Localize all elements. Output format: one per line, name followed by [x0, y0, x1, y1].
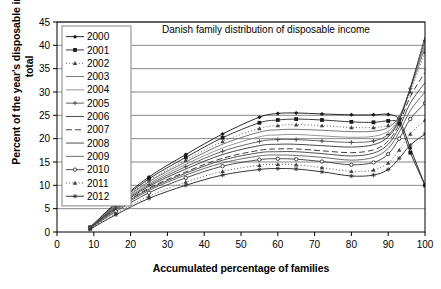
series-line	[90, 83, 425, 228]
marker-star	[320, 170, 324, 174]
y-tick-label: 40	[39, 40, 51, 51]
series-line	[90, 72, 425, 227]
marker-diamond	[276, 111, 280, 115]
marker-circle	[221, 165, 224, 168]
marker-triangle	[349, 169, 353, 173]
legend-label: 2004	[87, 84, 110, 95]
legend-label: 2009	[87, 151, 110, 162]
x-tick-label: 90	[383, 239, 395, 250]
x-tick-label: 0	[54, 239, 60, 250]
marker-triangle	[386, 161, 390, 165]
marker-circle	[258, 158, 261, 161]
series-2005	[88, 38, 427, 229]
marker-square	[320, 118, 324, 122]
marker-circle	[320, 160, 323, 163]
marker-diamond	[294, 111, 298, 115]
marker-square	[276, 118, 280, 122]
marker-circle	[276, 157, 279, 160]
marker-circle	[184, 176, 187, 179]
x-tick-label: 50	[235, 239, 247, 250]
marker-star	[220, 173, 224, 177]
y-tick-label: 10	[39, 180, 51, 191]
series-2006	[90, 37, 425, 227]
marker-circle	[350, 163, 353, 166]
marker-triangle	[220, 169, 224, 173]
marker-star	[408, 143, 412, 147]
series-2012	[88, 132, 427, 232]
marker-plus	[276, 137, 280, 141]
x-axis-label: Accumulated percentage of families	[57, 262, 425, 274]
legend: 2000200120022003200420052006200720082009…	[62, 26, 131, 206]
y-tick-label: 0	[44, 227, 50, 238]
marker-star	[371, 173, 375, 177]
legend-label: 2005	[87, 98, 110, 109]
marker-square	[372, 120, 376, 124]
series-2001	[88, 117, 427, 229]
legend-label: 2000	[87, 31, 110, 42]
marker-square	[258, 121, 262, 125]
marker-square	[408, 151, 412, 155]
marker-triangle	[320, 123, 324, 127]
y-tick-label: 35	[39, 63, 51, 74]
marker-plus	[371, 139, 375, 143]
marker-circle	[372, 161, 375, 164]
marker-star	[294, 167, 298, 171]
marker-circle	[409, 117, 412, 120]
x-tick-label: 40	[199, 239, 211, 250]
x-tick-label: 100	[417, 239, 434, 250]
x-tick-label: 20	[125, 239, 137, 250]
marker-star	[147, 196, 151, 200]
series-line	[90, 37, 425, 227]
y-tick-label: 45	[39, 17, 51, 28]
marker-star	[276, 166, 280, 170]
x-tick-label: 80	[346, 239, 358, 250]
plot-area: 051015202530354045 010203040506070809010…	[0, 0, 441, 289]
x-tick-label: 10	[88, 239, 100, 250]
legend-label: 2010	[87, 164, 110, 175]
marker-diamond	[371, 113, 375, 117]
series-2002	[88, 50, 427, 229]
legend-label: 2002	[87, 58, 110, 69]
marker-star	[386, 167, 390, 171]
marker-star	[184, 183, 188, 187]
marker-square	[73, 48, 77, 52]
series-2007	[90, 72, 425, 227]
marker-square	[294, 117, 298, 121]
marker-triangle	[257, 163, 261, 167]
marker-plus	[257, 139, 261, 143]
marker-circle	[295, 158, 298, 161]
marker-square	[386, 119, 390, 123]
marker-star	[88, 227, 92, 231]
y-tick-label: 5	[44, 203, 50, 214]
y-tick-label: 20	[39, 133, 51, 144]
legend-label: 2006	[87, 111, 110, 122]
chart-figure: Percent of the year's disposable income …	[0, 0, 441, 289]
marker-triangle	[294, 122, 298, 126]
marker-diamond	[220, 132, 224, 136]
y-tick-label: 30	[39, 87, 51, 98]
x-axis: 0102030405060708090100	[54, 232, 434, 250]
x-tick-label: 60	[272, 239, 284, 250]
marker-diamond	[257, 115, 261, 119]
legend-label: 2008	[87, 138, 110, 149]
series-line	[90, 119, 425, 227]
marker-plus	[220, 149, 224, 153]
marker-circle	[398, 137, 401, 140]
y-tick-label: 25	[39, 110, 51, 121]
marker-diamond	[349, 113, 353, 117]
marker-circle	[73, 168, 76, 171]
marker-square	[350, 120, 354, 124]
marker-star	[114, 213, 118, 217]
legend-label: 2011	[87, 178, 109, 189]
marker-star	[73, 194, 77, 198]
legend-label: 2003	[87, 71, 110, 82]
legend-label: 2012	[87, 191, 110, 202]
marker-circle	[387, 152, 390, 155]
legend-label: 2007	[87, 124, 110, 135]
marker-diamond	[386, 112, 390, 116]
marker-star	[397, 156, 401, 160]
series-2010	[88, 102, 426, 230]
marker-star	[349, 174, 353, 178]
marker-star	[257, 167, 261, 171]
marker-square	[221, 136, 225, 140]
